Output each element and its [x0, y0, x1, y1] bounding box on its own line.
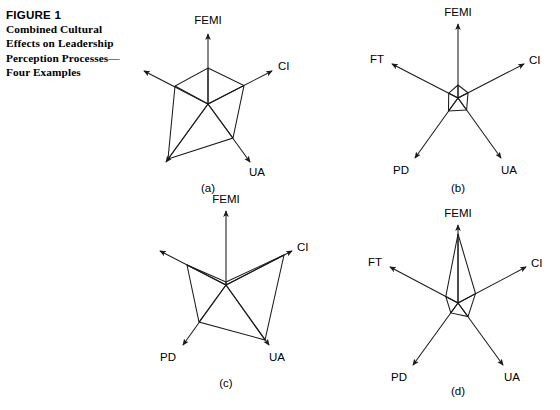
spoke-ua [458, 98, 467, 110]
spokes-group-b [449, 85, 469, 111]
panel-caption-c: (c) [219, 377, 233, 389]
figure-root: FIGURE 1 Combined Cultural Effects on Le… [0, 0, 560, 410]
panel-caption-b: (b) [451, 182, 465, 194]
spokes-group-a [168, 68, 244, 159]
axis-label-femi: FEMI [444, 207, 471, 219]
panel-caption-d: (d) [451, 385, 465, 397]
axis-label-pd: PD [160, 351, 176, 363]
axis-ft [392, 64, 458, 98]
spoke-pd [168, 104, 208, 159]
profile-polygon-d [446, 234, 476, 317]
figure-caption-text: Combined Cultural Effects on Leadership … [6, 22, 124, 79]
spoke-ci [208, 86, 244, 105]
radar-chart-panel-a: FEMI CI UA (a) [128, 6, 298, 196]
spoke-ua [226, 285, 265, 340]
figure-caption: FIGURE 1 Combined Cultural Effects on Le… [6, 8, 124, 79]
spoke-ua [208, 104, 233, 138]
spoke-pd [449, 98, 459, 111]
spoke-ft [175, 86, 208, 104]
radar-chart-panel-c: FEMI CI UA PD (c) [128, 205, 308, 400]
axis-label-femi: FEMI [444, 6, 471, 18]
axis-label-ua: UA [504, 371, 520, 383]
spoke-pd [451, 303, 458, 313]
spokes-group-c [187, 255, 284, 340]
radar-svg-d: FEMI CI UA PD FT (d) [368, 205, 548, 400]
radar-chart-panel-b: FEMI CI UA PD FT (b) [368, 6, 548, 196]
axes-group-c [160, 211, 292, 345]
spoke-ci [458, 93, 468, 98]
figure-number-label: FIGURE 1 [6, 8, 124, 22]
radar-svg-a: FEMI CI UA (a) [128, 6, 298, 196]
axis-label-pd: PD [393, 164, 409, 176]
radar-chart-panel-d: FEMI CI UA PD FT (d) [368, 205, 548, 400]
radar-svg-b: FEMI CI UA PD FT (b) [368, 6, 548, 196]
axis-label-femi: FEMI [212, 193, 239, 205]
axis-label-ua: UA [249, 166, 265, 178]
axis-label-ft: FT [368, 256, 382, 268]
axis-label-ci: CI [531, 257, 543, 269]
axis-label-pd: PD [391, 371, 407, 383]
axis-label-ci: CI [297, 241, 309, 253]
radar-svg-c: FEMI CI UA PD (c) [128, 205, 308, 400]
axis-label-ua: UA [269, 351, 285, 363]
axis-label-ua: UA [501, 164, 517, 176]
profile-polygon-a [168, 68, 244, 159]
axis-label-ci: CI [278, 60, 290, 72]
spoke-pd [199, 285, 226, 322]
axis-label-ft: FT [370, 53, 384, 65]
axis-label-femi: FEMI [194, 14, 221, 26]
spoke-ft [449, 93, 458, 98]
axis-label-ci: CI [529, 54, 541, 66]
